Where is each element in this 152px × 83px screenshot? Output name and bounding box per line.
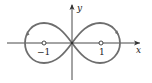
figure-eight-diagram: −1 1 x y (0, 0, 152, 83)
x-axis-label: x (136, 45, 141, 55)
y-axis-label: y (76, 3, 83, 13)
origin-point (71, 42, 74, 45)
tick-label-minus-one: −1 (37, 47, 50, 57)
point-minus-one (42, 41, 46, 45)
point-one (99, 41, 103, 45)
tick-label-one: 1 (99, 47, 105, 57)
